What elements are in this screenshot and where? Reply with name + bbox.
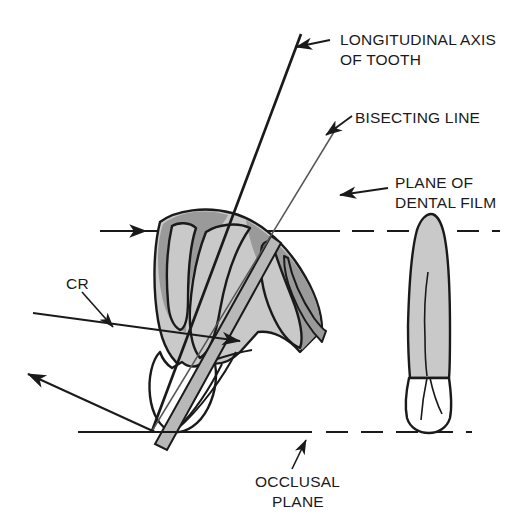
- label-occlusal-plane-line1: OCCLUSAL: [255, 473, 340, 490]
- diagram-canvas: LONGITUDINAL AXIS OF TOOTH BISECTING LIN…: [0, 0, 524, 529]
- leader-occlusal-plane: [292, 440, 306, 469]
- incisor-root: [408, 214, 450, 378]
- label-longitudinal-axis-line1: LONGITUDINAL AXIS: [340, 31, 496, 48]
- central-ray-lower: [28, 374, 155, 432]
- label-plane-of-film-line1: PLANE OF: [395, 174, 473, 191]
- incisor-crown: [406, 378, 451, 433]
- cr-lower-arrowhead: [28, 374, 155, 432]
- leader-bisecting-line: [326, 116, 352, 135]
- leader-longitudinal-axis: [296, 40, 330, 47]
- label-longitudinal-axis-line2: OF TOOTH: [340, 51, 421, 68]
- bisecting-angle-diagram: LONGITUDINAL AXIS OF TOOTH BISECTING LIN…: [0, 0, 524, 529]
- label-bisecting-line: BISECTING LINE: [355, 109, 480, 126]
- leader-plane-of-dental-film: [340, 188, 388, 195]
- label-central-ray: CR: [66, 275, 89, 292]
- label-occlusal-plane-line2: PLANE: [272, 493, 324, 510]
- label-plane-of-film-line2: DENTAL FILM: [395, 194, 496, 211]
- tooth-upright-incisor: [406, 214, 451, 433]
